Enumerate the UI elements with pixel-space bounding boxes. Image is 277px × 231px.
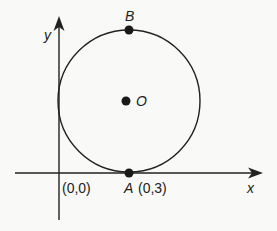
point-a-coord-label: (0,3) <box>138 180 167 196</box>
point-a-dot <box>125 169 134 178</box>
diagram-svg: y x B O (0,0) A (0,3) <box>0 0 277 231</box>
diagram-canvas: y x B O (0,0) A (0,3) <box>0 0 277 231</box>
point-o-dot <box>122 97 131 106</box>
y-axis-label: y <box>43 27 52 43</box>
point-o-label: O <box>136 93 147 109</box>
point-a-label: A <box>123 180 133 196</box>
x-axis <box>15 168 263 179</box>
point-b-dot <box>125 26 134 35</box>
x-axis-label: x <box>246 180 255 196</box>
point-b-label: B <box>125 8 134 24</box>
origin-label: (0,0) <box>62 180 91 196</box>
